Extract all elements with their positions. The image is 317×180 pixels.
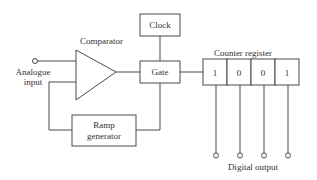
adc-block-diagram: Comparator Analogue input Clock Gate Ram… — [0, 0, 317, 180]
digital-output-lines — [214, 85, 291, 158]
analogue-input-terminal — [33, 59, 38, 64]
comparator-label: Comparator — [80, 36, 123, 46]
analogue-input-label-2: input — [24, 77, 43, 87]
output-terminal-0 — [214, 153, 219, 158]
comparator-symbol — [76, 50, 116, 100]
register-bit-1: 0 — [237, 68, 242, 78]
counter-register-label: Counter register — [214, 48, 272, 58]
output-terminal-3 — [286, 153, 291, 158]
clock-label: Clock — [149, 20, 171, 30]
output-terminal-2 — [262, 153, 267, 158]
register-bit-3: 1 — [285, 68, 290, 78]
ramp-label-2: generator — [87, 131, 121, 141]
digital-output-label: Digital output — [228, 162, 279, 172]
register-bit-2: 0 — [261, 68, 266, 78]
gate-label: Gate — [152, 67, 169, 77]
output-terminal-1 — [238, 153, 243, 158]
counter-register: 1 0 0 1 — [203, 59, 299, 85]
register-bit-0: 1 — [213, 68, 218, 78]
analogue-input-label-1: Analogue — [16, 67, 51, 77]
ramp-label-1: Ramp — [93, 120, 115, 130]
gate-to-ramp-wire — [136, 83, 160, 130]
